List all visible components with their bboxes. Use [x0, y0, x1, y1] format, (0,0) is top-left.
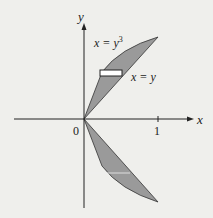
- x-axis-arrow-icon: [187, 117, 194, 122]
- x-tick-label-1: 1: [154, 124, 160, 138]
- y-axis-arrow-icon: [82, 23, 87, 30]
- line-label: x = y: [130, 70, 156, 84]
- lower-region: [84, 119, 158, 202]
- upper-curve-label: x = y3: [93, 35, 123, 50]
- diagram: x y 0 1 x = y3 x = y: [0, 0, 213, 218]
- approx-rectangle: [100, 70, 122, 76]
- x-axis-label: x: [196, 112, 203, 127]
- origin-label: 0: [73, 124, 79, 138]
- y-axis-label: y: [76, 9, 84, 24]
